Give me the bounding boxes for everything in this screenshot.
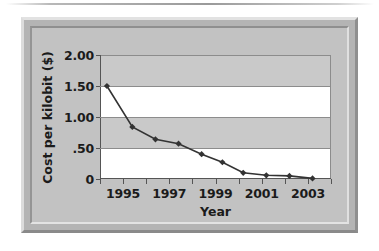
x-axis-tick (262, 179, 263, 184)
x-axis-tick (285, 179, 286, 184)
plot-area: 0.501.001.502.00 19951997199920012003 (100, 55, 331, 179)
x-axis-tick (239, 179, 240, 184)
y-axis-tick-label: 1.50 (64, 79, 94, 94)
x-axis-tick (192, 179, 193, 184)
data-point-marker (152, 136, 158, 142)
data-point-marker (199, 151, 205, 157)
y-axis-tick-label: .50 (72, 141, 94, 156)
data-point-marker (219, 159, 225, 165)
top-divider-rule (6, 3, 374, 5)
chart-plate: Cost per kilobit ($) 0.501.001.502.00 19… (32, 28, 347, 222)
x-axis-tick (123, 179, 124, 184)
data-point-marker (175, 141, 181, 147)
y-axis-tick-label: 0 (86, 172, 95, 187)
x-axis-title: Year (100, 204, 331, 219)
chart-screenshot: Cost per kilobit ($) 0.501.001.502.00 19… (0, 0, 379, 251)
x-axis-tick-label: 2001 (245, 186, 279, 201)
x-axis-tick (216, 179, 217, 184)
x-axis-tick (100, 179, 101, 184)
y-axis-title-label: Cost per kilobit ($) (40, 51, 55, 184)
data-point-marker (286, 173, 292, 179)
data-point-marker (240, 170, 246, 176)
x-axis-tick-label: 1995 (106, 186, 140, 201)
x-axis-tick-label: 2003 (291, 186, 325, 201)
x-axis-tick (146, 179, 147, 184)
data-series-line (100, 55, 331, 179)
x-axis-tick (331, 179, 332, 184)
x-axis-tick (308, 179, 309, 184)
chart-outer-frame: Cost per kilobit ($) 0.501.001.502.00 19… (21, 17, 358, 233)
data-point-marker (309, 175, 315, 181)
x-axis-tick (169, 179, 170, 184)
series-polyline (107, 86, 313, 178)
chart-inner-bevel: Cost per kilobit ($) 0.501.001.502.00 19… (30, 26, 349, 224)
data-point-marker (263, 172, 269, 178)
y-axis-title: Cost per kilobit ($) (38, 55, 56, 179)
x-axis-tick-label: 1999 (199, 186, 233, 201)
x-axis-tick-label: 1997 (152, 186, 186, 201)
y-axis-tick-label: 1.00 (64, 110, 94, 125)
y-axis-tick-label: 2.00 (64, 48, 94, 63)
